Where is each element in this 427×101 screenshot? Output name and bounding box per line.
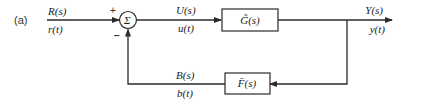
feedback-time-label: b(t): [177, 87, 193, 100]
output-laplace-label: Y(s): [365, 4, 383, 17]
figure-label: (a): [14, 14, 27, 26]
plus-sign: +: [110, 5, 116, 16]
output-time-label: y(t): [369, 23, 386, 36]
control-laplace-label: U(s): [176, 4, 196, 17]
feedback-tap-arrow: [270, 20, 347, 84]
block-diagram: (a) R(s) r(t) Σ + − U(s) u(t) G̃(s) Y(s)…: [0, 0, 427, 101]
minus-sign: −: [114, 30, 120, 41]
control-time-label: u(t): [178, 22, 194, 35]
forward-block-label: G̃(s): [240, 14, 260, 27]
input-laplace-label: R(s): [47, 5, 67, 18]
feedback-block-label: F̄(s): [237, 77, 257, 90]
input-time-label: r(t): [48, 23, 63, 36]
sigma-symbol: Σ: [123, 14, 131, 26]
feedback-laplace-label: B(s): [176, 69, 195, 82]
